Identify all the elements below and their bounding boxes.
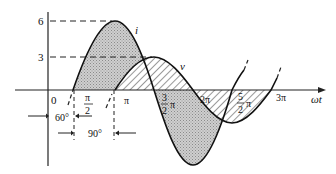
y-tick-3: 3 — [38, 51, 44, 63]
x-origin: 0 — [51, 94, 57, 106]
x-tick-2pi: 2π — [200, 94, 210, 105]
curve-v-label: v — [180, 60, 185, 72]
phase-60-label: 60° — [55, 112, 69, 123]
x-tick-3pi-2-suffix: π — [170, 99, 175, 110]
x-tick-5pi-2-suffix: π — [246, 98, 251, 109]
x-tick-3pi-2-num: 3 — [162, 92, 167, 103]
sine-diagram: 6 3 0 π 2 π 3 2 π 2π 5 2 π 3π ωt i v 60°… — [0, 0, 336, 174]
x-tick-3pi-2-den: 2 — [162, 105, 167, 116]
x-axis-label: ωt — [311, 93, 323, 105]
y-tick-6: 6 — [38, 15, 44, 27]
phase-90-label: 90° — [88, 128, 102, 139]
curve-i-label: i — [135, 24, 138, 36]
x-tick-5pi-2-den: 2 — [238, 104, 243, 115]
x-tick-5pi-2-num: 5 — [238, 91, 243, 102]
x-tick-pi-2-den: 2 — [85, 105, 90, 116]
x-tick-pi-2-num: π — [85, 92, 90, 103]
x-tick-pi: π — [124, 95, 129, 106]
x-tick-3pi: 3π — [276, 92, 286, 103]
